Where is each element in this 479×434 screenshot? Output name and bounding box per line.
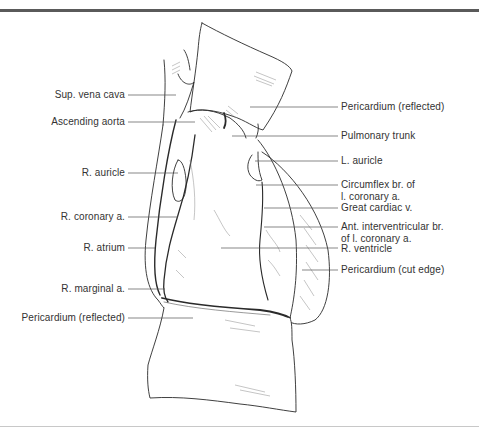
label-ant-interventricular-br: Ant. interventricular br. of l. coronary… [341,221,444,245]
label-pulmonary-trunk: Pulmonary trunk [341,130,415,142]
label-circumflex-br: Circumflex br. of l. coronary a. [341,179,415,203]
label-pericardium-reflected-lower: Pericardium (reflected) [22,312,125,324]
label-r-marginal-a: R. marginal a. [61,283,125,295]
pericardium-lower-flap [148,308,296,412]
left-auricle [248,152,262,181]
label-r-coronary-a: R. coronary a. [61,211,125,223]
label-pericardium-cut-edge: Pericardium (cut edge) [341,264,444,276]
label-ascending-aorta: Ascending aorta [51,116,125,128]
pericardium-upper-flap [190,23,292,130]
left-heart-border [258,140,297,318]
label-great-cardiac-v: Great cardiac v. [341,202,412,214]
label-pericardium-reflected-upper: Pericardium (reflected) [341,101,444,113]
interventricular-groove [259,182,268,300]
right-atrium-border [145,125,164,308]
sup-vena-cava [163,60,194,125]
label-r-ventricle: R. ventricle [341,243,392,255]
label-r-atrium: R. atrium [84,242,125,254]
label-r-auricle: R. auricle [82,167,125,179]
label-sup-vena-cava: Sup. vena cava [55,89,125,101]
label-l-auricle: L. auricle [341,155,383,167]
